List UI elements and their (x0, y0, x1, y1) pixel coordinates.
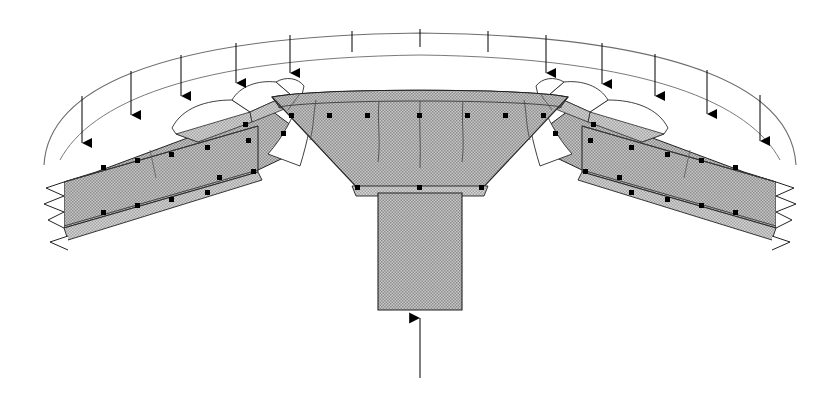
punching-shear-cone (272, 90, 568, 196)
column (378, 193, 462, 310)
figure-canvas: Punching shear failure of a reinforced c… (0, 0, 829, 395)
punching-shear-diagram (0, 0, 829, 395)
